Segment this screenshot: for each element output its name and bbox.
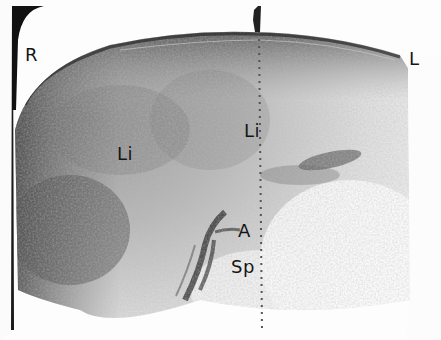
label-spine: Sp <box>231 258 255 276</box>
label-aorta: A <box>238 222 251 240</box>
ultrasound-frame: R L Li Li A Sp <box>0 0 441 340</box>
ultrasound-scan <box>0 0 441 340</box>
label-left: L <box>409 50 420 68</box>
label-liver-left: Li <box>117 145 133 163</box>
label-liver-center: Li <box>244 122 260 140</box>
label-right: R <box>25 46 38 64</box>
